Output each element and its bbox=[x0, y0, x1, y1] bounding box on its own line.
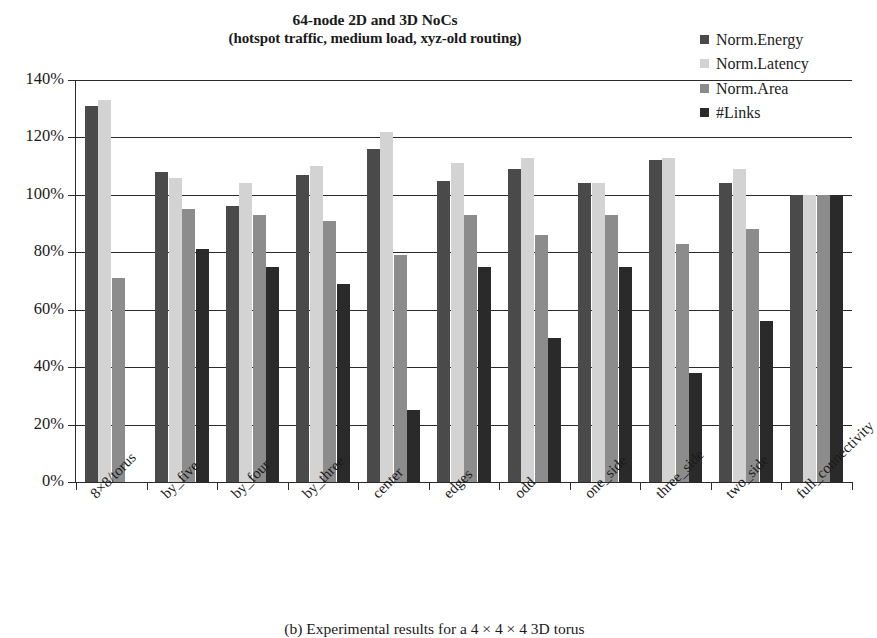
bar[interactable] bbox=[676, 244, 689, 482]
x-axis-tick bbox=[147, 482, 148, 490]
bar[interactable] bbox=[337, 284, 350, 482]
bar[interactable] bbox=[367, 149, 380, 482]
x-axis-tick bbox=[711, 482, 712, 490]
bar-group bbox=[147, 80, 218, 482]
bar[interactable] bbox=[535, 235, 548, 482]
y-axis-tick-label: 40% bbox=[0, 358, 64, 374]
bar[interactable] bbox=[239, 183, 252, 482]
figure-caption: (b) Experimental results for a 4 × 4 × 4… bbox=[0, 620, 869, 638]
x-axis-tick bbox=[429, 482, 430, 490]
bar-group bbox=[781, 80, 852, 482]
bar[interactable] bbox=[226, 206, 239, 482]
bar-group bbox=[640, 80, 711, 482]
y-axis-tick-label: 0% bbox=[0, 473, 64, 489]
bar-group bbox=[429, 80, 500, 482]
y-axis-tick-label: 140% bbox=[0, 71, 64, 87]
bar[interactable] bbox=[253, 215, 266, 482]
bar-group bbox=[711, 80, 782, 482]
bar[interactable] bbox=[733, 169, 746, 482]
bar[interactable] bbox=[296, 175, 309, 482]
bar-group bbox=[499, 80, 570, 482]
y-axis-tick-label: 120% bbox=[0, 128, 64, 144]
bar-group bbox=[288, 80, 359, 482]
x-axis-tick bbox=[358, 482, 359, 490]
bar[interactable] bbox=[719, 183, 732, 482]
bar[interactable] bbox=[437, 181, 450, 483]
bar[interactable] bbox=[155, 172, 168, 482]
bar[interactable] bbox=[182, 209, 195, 482]
x-axis-tick bbox=[499, 482, 500, 490]
bar[interactable] bbox=[619, 267, 632, 482]
x-axis-tick bbox=[852, 482, 853, 490]
bar[interactable] bbox=[746, 229, 759, 482]
plot-area bbox=[76, 80, 852, 482]
bar[interactable] bbox=[98, 100, 111, 482]
bar[interactable] bbox=[394, 255, 407, 482]
x-axis-tick bbox=[640, 482, 641, 490]
y-axis-tick-label: 100% bbox=[0, 186, 64, 202]
bar-group bbox=[570, 80, 641, 482]
y-axis-tick-label: 20% bbox=[0, 416, 64, 432]
bar[interactable] bbox=[323, 221, 336, 482]
bar[interactable] bbox=[266, 267, 279, 482]
bar[interactable] bbox=[521, 158, 534, 482]
bar-group bbox=[76, 80, 147, 482]
x-axis-tick bbox=[288, 482, 289, 490]
y-axis-tick-label: 60% bbox=[0, 301, 64, 317]
bar[interactable] bbox=[112, 278, 125, 482]
x-axis-tick bbox=[217, 482, 218, 490]
bar-group bbox=[358, 80, 429, 482]
bar[interactable] bbox=[649, 160, 662, 482]
bar[interactable] bbox=[85, 106, 98, 482]
bar[interactable] bbox=[464, 215, 477, 482]
bar[interactable] bbox=[169, 178, 182, 482]
bar[interactable] bbox=[508, 169, 521, 482]
bar[interactable] bbox=[662, 158, 675, 482]
bar[interactable] bbox=[380, 132, 393, 482]
bar[interactable] bbox=[817, 195, 830, 482]
bar[interactable] bbox=[451, 163, 464, 482]
bar[interactable] bbox=[548, 338, 561, 482]
y-axis-tick-label: 80% bbox=[0, 243, 64, 259]
bar[interactable] bbox=[803, 195, 816, 482]
bar[interactable] bbox=[196, 249, 209, 482]
bar[interactable] bbox=[478, 267, 491, 482]
bar[interactable] bbox=[578, 183, 591, 482]
x-axis-tick bbox=[781, 482, 782, 490]
bar[interactable] bbox=[605, 215, 618, 482]
bar[interactable] bbox=[790, 195, 803, 482]
bar[interactable] bbox=[592, 183, 605, 482]
x-axis-tick bbox=[76, 482, 77, 490]
bar-group bbox=[217, 80, 288, 482]
x-axis-tick bbox=[570, 482, 571, 490]
bar[interactable] bbox=[407, 410, 420, 482]
bar[interactable] bbox=[310, 166, 323, 482]
bar[interactable] bbox=[830, 195, 843, 482]
